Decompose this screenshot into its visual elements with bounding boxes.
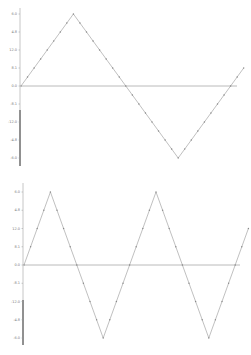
data-point-marker <box>162 210 163 211</box>
y-tick-label: -6.0 <box>10 156 17 160</box>
data-point-marker <box>228 283 229 284</box>
data-point-marker <box>138 103 139 104</box>
data-point-marker <box>33 67 34 68</box>
data-point-marker <box>230 85 231 86</box>
data-point-marker <box>182 264 183 265</box>
data-point-marker <box>145 112 146 113</box>
y-tick-label: -6.0 <box>13 336 20 340</box>
data-point-marker <box>188 283 189 284</box>
data-point-marker <box>195 301 196 302</box>
data-point-marker <box>122 283 123 284</box>
data-point-marker <box>136 246 137 247</box>
data-point-marker <box>89 301 90 302</box>
data-point-marker <box>125 85 126 86</box>
y-tick-label: 8.1 <box>11 66 17 70</box>
data-point-marker <box>221 301 222 302</box>
triangle-wave-plot-bottom: 6.04.812.08.10.0-8.1-12.0-4.8-6.0 <box>0 175 251 355</box>
data-point-marker <box>202 319 203 320</box>
data-point-marker <box>86 31 87 32</box>
y-tick-label: -12.0 <box>11 300 20 304</box>
y-tick-label: 6.0 <box>11 12 17 16</box>
data-point-marker <box>109 319 110 320</box>
data-point-marker <box>210 112 211 113</box>
data-point-marker <box>171 148 172 149</box>
data-point-marker <box>23 264 24 265</box>
data-point-marker <box>155 191 156 192</box>
data-point-marker <box>20 85 21 86</box>
y-tick-label: -4.8 <box>13 318 20 322</box>
data-point-marker <box>184 148 185 149</box>
data-point-marker <box>76 264 77 265</box>
data-point-marker <box>83 283 84 284</box>
data-point-marker <box>40 58 41 59</box>
data-point-marker <box>92 40 93 41</box>
data-point-marker <box>175 246 176 247</box>
data-point-marker <box>79 22 80 23</box>
data-point-marker <box>99 49 100 50</box>
data-point-marker <box>243 67 244 68</box>
data-point-marker <box>50 191 51 192</box>
data-point-marker <box>236 76 237 77</box>
y-tick-label: 6.0 <box>14 190 20 194</box>
data-point-marker <box>60 31 61 32</box>
data-point-marker <box>43 210 44 211</box>
data-point-marker <box>37 228 38 229</box>
data-point-marker <box>164 139 165 140</box>
data-point-marker <box>178 157 179 158</box>
data-point-marker <box>27 76 28 77</box>
data-point-marker <box>241 246 242 247</box>
data-point-marker <box>217 103 218 104</box>
y-tick-label: 12.0 <box>9 48 17 52</box>
data-point-marker <box>151 121 152 122</box>
data-point-marker <box>30 246 31 247</box>
data-point-marker <box>132 94 133 95</box>
y-tick-label: 0.0 <box>11 84 17 88</box>
data-point-marker <box>119 76 120 77</box>
chart-bottom: 6.04.812.08.10.0-8.1-12.0-4.8-6.0 <box>0 175 251 355</box>
data-point-marker <box>235 264 236 265</box>
data-point-marker <box>105 58 106 59</box>
data-point-marker <box>96 319 97 320</box>
chart-top: 6.04.812.08.10.0-8.1-12.0-4.8-6.0 <box>0 0 251 175</box>
data-point-marker <box>191 139 192 140</box>
data-point-marker <box>103 337 104 338</box>
data-point-marker <box>142 228 143 229</box>
data-point-marker <box>73 13 74 14</box>
data-point-marker <box>215 319 216 320</box>
data-point-marker <box>223 94 224 95</box>
y-tick-label: -8.1 <box>10 102 17 106</box>
y-tick-label: -8.1 <box>13 281 20 285</box>
y-tick-label: 4.8 <box>11 30 17 34</box>
data-point-marker <box>169 228 170 229</box>
data-point-marker <box>47 49 48 50</box>
data-point-marker <box>149 210 150 211</box>
data-point-marker <box>56 210 57 211</box>
triangle-wave-plot-top: 6.04.812.08.10.0-8.1-12.0-4.8-6.0 <box>0 0 251 175</box>
y-tick-label: 12.0 <box>12 227 20 231</box>
y-tick-label: 8.1 <box>14 245 20 249</box>
data-point-marker <box>70 246 71 247</box>
y-tick-label: 4.8 <box>14 208 20 212</box>
data-point-marker <box>208 337 209 338</box>
data-point-marker <box>197 130 198 131</box>
data-point-marker <box>248 228 249 229</box>
data-point-marker <box>129 264 130 265</box>
data-point-marker <box>63 228 64 229</box>
data-point-marker <box>112 67 113 68</box>
data-point-marker <box>158 130 159 131</box>
data-point-marker <box>116 301 117 302</box>
y-tick-label: -4.8 <box>10 138 17 142</box>
data-point-marker <box>53 40 54 41</box>
y-tick-label: -12.0 <box>8 120 17 124</box>
data-point-marker <box>204 121 205 122</box>
data-point-marker <box>66 22 67 23</box>
y-tick-label: 0.0 <box>14 263 20 267</box>
